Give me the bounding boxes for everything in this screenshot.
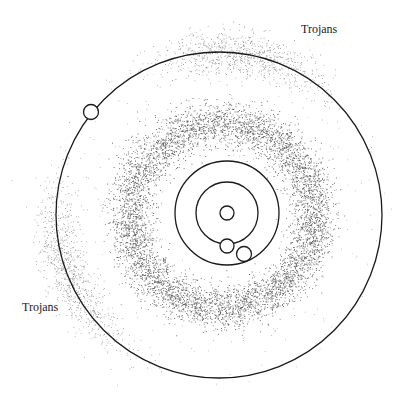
trojans-label-top: Trojans [301,22,337,37]
sun [220,206,234,220]
jupiter-orbit [56,52,382,378]
trojan-clouds [12,22,392,386]
mars-planet [237,247,252,262]
jupiter-planet [84,105,99,120]
earth-planet [220,239,234,253]
solar-system-diagram [0,0,401,400]
trojans-label-left: Trojans [22,300,58,315]
